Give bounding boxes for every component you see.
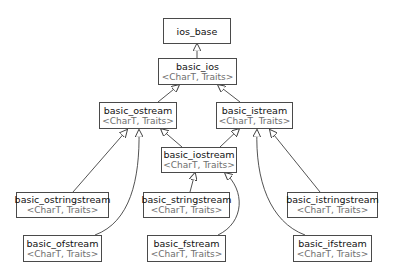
node-basic-istringstream[interactable]: basic_istringstream <CharT, Traits> [287,192,378,218]
node-basic-ostringstream[interactable]: basic_ostringstream <CharT, Traits> [16,192,109,218]
node-basic-stringstream[interactable]: basic_stringstream <CharT, Traits> [143,192,230,218]
class-name: basic_fstream [153,238,219,249]
class-name: basic_ios [176,61,219,72]
template-params: <CharT, Traits> [27,205,99,216]
template-params: <CharT, Traits> [27,249,99,260]
edge-basic_ostringstream-basic_ostream [73,130,127,192]
edge-basic_istream-basic_ios [218,85,240,102]
class-name: basic_stringstream [142,194,232,205]
template-params: <CharT, Traits> [219,116,291,127]
edge-basic_iostream-basic_ostream [161,129,182,147]
edge-basic_istringstream-basic_istream [270,130,320,192]
template-params: <CharT, Traits> [297,205,369,216]
class-name: basic_istream [222,105,287,116]
template-params: <CharT, Traits> [297,249,369,260]
node-basic-ifstream[interactable]: basic_ifstream <CharT, Traits> [293,235,372,262]
node-basic-ostream[interactable]: basic_ostream <CharT, Traits> [99,102,177,129]
edge-basic_iostream-basic_istream [220,129,239,147]
class-name: basic_istringstream [286,194,379,205]
template-params: <CharT, Traits> [163,160,235,171]
node-basic-ios[interactable]: basic_ios <CharT, Traits> [158,58,237,85]
class-name: basic_ostream [104,105,173,116]
edge-basic_stringstream-basic_iostream [190,173,195,192]
class-name: ios_base [177,26,218,37]
template-params: <CharT, Traits> [151,205,223,216]
template-params: <CharT, Traits> [162,72,234,83]
template-params: <CharT, Traits> [102,116,174,127]
edge-basic_ifstream-basic_istream [257,130,305,235]
class-name: basic_ofstream [27,238,99,249]
node-ios-base[interactable]: ios_base [163,18,231,44]
node-basic-fstream[interactable]: basic_fstream <CharT, Traits> [147,235,226,262]
class-name: basic_ostringstream [15,194,111,205]
template-params: <CharT, Traits> [151,249,223,260]
node-basic-ofstream[interactable]: basic_ofstream <CharT, Traits> [23,235,102,262]
node-basic-istream[interactable]: basic_istream <CharT, Traits> [216,102,293,129]
class-name: basic_ifstream [298,238,367,249]
edge-basic_ostream-basic_ios [158,85,179,102]
edge-basic_ofstream-basic_ostream [95,130,139,235]
node-basic-iostream[interactable]: basic_iostream <CharT, Traits> [161,147,237,173]
class-inheritance-diagram: ios_base basic_ios <CharT, Traits> basic… [0,0,393,278]
class-name: basic_iostream [163,149,234,160]
